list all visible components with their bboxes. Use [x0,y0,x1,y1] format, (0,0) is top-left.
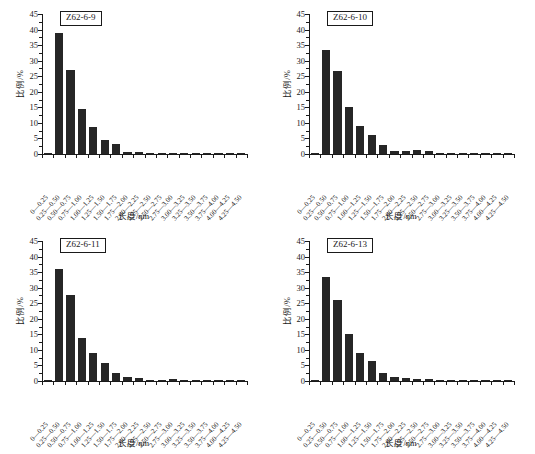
x-tick-mark [320,154,321,158]
x-tick-mark [412,154,413,158]
bar-slot [457,14,468,154]
x-tick-mark [247,381,248,385]
x-tick-mark [65,154,66,158]
bar-slot [42,14,53,154]
bar-slot [355,14,366,154]
bar-slot [201,241,212,381]
bar [311,153,319,154]
bar-slot [423,241,434,381]
x-tick-mark [236,154,237,158]
y-tick-label: 35 [285,268,305,277]
bar [169,379,177,381]
bar [158,153,166,154]
bar [425,379,433,381]
bar-slot [42,241,53,381]
y-tick-label: 5 [18,361,38,370]
bar [146,153,154,154]
x-tick-mark [53,154,54,158]
bar-slot [355,241,366,381]
bar [493,153,501,154]
y-tick-label: 25 [285,299,305,308]
x-tick-mark [320,381,321,385]
bar-slot [366,241,377,381]
y-tick-label: 20 [285,88,305,97]
y-tick-label: 10 [285,119,305,128]
bar-slot [53,14,64,154]
x-tick-mark [110,381,111,385]
x-tick-mark [201,381,202,385]
bar-slot [377,14,388,154]
bar-slot [236,241,247,381]
x-tick-mark [88,381,89,385]
x-tick-mark [457,381,458,385]
bar-slot [457,241,468,381]
bar [180,153,188,154]
bar-slot [332,241,343,381]
x-tick-mark [76,381,77,385]
plot-area [309,14,514,154]
x-tick-mark [332,154,333,158]
bar [89,353,97,381]
bar [237,153,245,154]
bar [402,151,410,154]
bar [333,71,341,154]
x-tick-mark [156,154,157,158]
x-tick-mark [503,154,504,158]
chart-panel: 比例/%0510152025303540450—0.250.25—0.500.5… [267,0,535,227]
bar [78,338,86,381]
bar-slot [213,14,224,154]
x-tick-mark [42,154,43,158]
bar [44,380,52,381]
bar-slot [224,14,235,154]
x-axis-ticks: 0—0.250.25—0.500.50—0.750.75—1.001.00—1.… [42,159,247,199]
bar [447,153,455,154]
x-tick-mark [400,381,401,385]
bar [123,152,131,154]
bar [425,151,433,154]
bar [226,380,234,381]
bar [66,295,74,381]
x-tick-mark [42,381,43,385]
x-tick-mark [514,381,515,385]
bar-slot [110,241,121,381]
bar-series [42,14,247,154]
y-tick-label: 25 [18,299,38,308]
x-axis-ticks: 0—0.250.25—0.500.50—0.750.75—1.001.00—1.… [42,386,247,426]
bar [333,300,341,381]
y-axis-ticks: 051015202530354045 [285,241,305,381]
y-axis-ticks: 051015202530354045 [18,241,38,381]
y-tick-label: 30 [285,56,305,65]
x-tick-mark [76,154,77,158]
x-tick-mark [224,154,225,158]
chart-title-box: Z62-6-10 [327,11,373,26]
bar-series [309,241,514,381]
bar-slot [320,241,331,381]
y-tick-label: 0 [285,150,305,159]
bar-slot [156,241,167,381]
bar [214,153,222,154]
y-tick-label: 15 [285,330,305,339]
bar [470,380,478,381]
y-tick-label: 35 [285,41,305,50]
x-tick-mark [309,154,310,158]
y-tick-label: 20 [18,315,38,324]
bar-slot [503,14,514,154]
bar [44,153,52,154]
chart-panel: 比例/%0510152025303540450—0.250.25—0.500.5… [0,227,267,454]
x-tick-mark [190,381,191,385]
x-tick-mark [145,154,146,158]
x-tick-mark [503,381,504,385]
bar-slot [434,241,445,381]
bar [169,153,177,154]
x-tick-mark [446,381,447,385]
bar [470,153,478,154]
x-tick-mark [236,381,237,385]
bar-slot [53,241,64,381]
bar [345,107,353,154]
bar-slot [145,14,156,154]
bar-slot [412,14,423,154]
y-tick-label: 40 [18,25,38,34]
bar [66,70,74,154]
x-tick-mark [179,381,180,385]
x-tick-mark [423,154,424,158]
